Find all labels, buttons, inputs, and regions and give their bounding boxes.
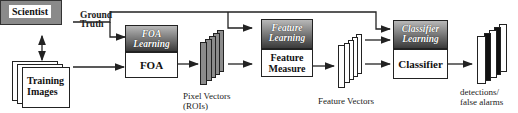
feature-measure-line2: Measure — [262, 63, 312, 74]
scientist-label: Scientist — [9, 5, 51, 18]
ground-truth-line2: Truth — [80, 20, 112, 29]
ground-truth-label: Ground Truth — [80, 11, 112, 29]
foa-box: FOA — [125, 52, 178, 78]
pixel-vectors-caption: Pixel Vectors (ROIs) — [183, 91, 231, 111]
classifier-learning-line1: Classifier — [394, 24, 447, 34]
training-images-line1: Training — [27, 75, 69, 86]
feature-vectors-caption: Feature Vectors — [318, 96, 374, 106]
foa-learning-line2: Learning — [126, 39, 177, 49]
feature-vector-bar — [338, 45, 345, 88]
detections-line2: false alarms — [460, 97, 503, 107]
image-page-front: Training Images — [22, 67, 70, 108]
feature-learning-line1: Feature — [262, 23, 312, 33]
feature-measure-box: Feature Measure — [261, 49, 313, 77]
detection-bar-white — [477, 36, 486, 84]
detections-line1: detections/ — [460, 87, 503, 97]
feature-learning-line2: Learning — [262, 33, 312, 43]
training-images-line2: Images — [27, 86, 69, 97]
classifier-learning-box: Classifier Learning — [393, 20, 448, 49]
pixel-vector-bar — [200, 42, 207, 85]
feature-measure-line1: Feature — [262, 52, 312, 63]
feature-learning-box: Feature Learning — [261, 19, 313, 49]
classifier-box: Classifier — [393, 49, 448, 79]
detections-caption: detections/ false alarms — [460, 87, 503, 107]
pipeline-diagram: Scientist Ground Truth Training Images F… — [0, 0, 518, 113]
foa-learning-line1: FOA — [126, 29, 177, 39]
pixel-vectors-line1: Pixel Vectors — [183, 91, 231, 101]
classifier-learning-line2: Learning — [394, 34, 447, 44]
foa-learning-box: FOA Learning — [125, 25, 178, 52]
pixel-vectors-line2: (ROIs) — [183, 101, 231, 111]
